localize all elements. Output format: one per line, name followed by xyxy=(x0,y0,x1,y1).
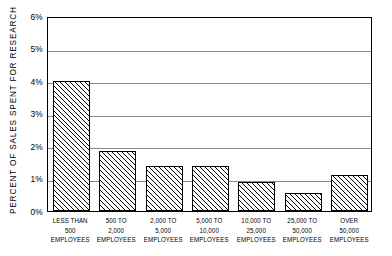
category-label: 10,000 TO25,000EMPLOYEES xyxy=(235,216,276,245)
y-tick-label: 0% xyxy=(17,208,43,217)
category-label-line: OVER xyxy=(328,216,369,226)
category-label-line: EMPLOYEES xyxy=(143,235,184,245)
category-label-line: EMPLOYEES xyxy=(50,235,91,245)
category-label-line: 25,000 TO xyxy=(282,216,323,226)
y-tick-label: 3% xyxy=(17,110,43,119)
bar-chart: PERCENT OF SALES SPENT FOR RESEARCH 0%1%… xyxy=(0,0,392,256)
bar xyxy=(99,151,136,211)
bar xyxy=(331,175,368,211)
y-tick-label: 5% xyxy=(17,45,43,54)
gridline xyxy=(48,116,371,117)
category-label-line: 50,000 xyxy=(282,226,323,236)
category-label: 500 TO2,000EMPLOYEES xyxy=(96,216,137,245)
category-label-line: EMPLOYEES xyxy=(96,235,137,245)
category-label-line: 500 xyxy=(50,226,91,236)
bar xyxy=(53,81,90,211)
category-label: 25,000 TO50,000EMPLOYEES xyxy=(282,216,323,245)
category-label-line: EMPLOYEES xyxy=(235,235,276,245)
y-tick-label: 1% xyxy=(17,175,43,184)
bar xyxy=(285,193,322,211)
category-label-line: 2,000 TO xyxy=(143,216,184,226)
category-label: 2,000 TO5,000EMPLOYEES xyxy=(143,216,184,245)
plot-area xyxy=(47,17,372,212)
category-label: OVER50,000EMPLOYEES xyxy=(328,216,369,245)
bar xyxy=(238,182,275,211)
y-tick-label: 2% xyxy=(17,143,43,152)
bar xyxy=(192,166,229,212)
category-label-line: EMPLOYEES xyxy=(282,235,323,245)
category-label-line: 5,000 xyxy=(143,226,184,236)
category-label-line: EMPLOYEES xyxy=(328,235,369,245)
category-label-line: 5,000 TO xyxy=(189,216,230,226)
category-label-line: 25,000 xyxy=(235,226,276,236)
category-label-line: LESS THAN xyxy=(50,216,91,226)
bar xyxy=(146,166,183,212)
category-label-line: 10,000 TO xyxy=(235,216,276,226)
category-label: 5,000 TO10,000EMPLOYEES xyxy=(189,216,230,245)
y-tick-label: 4% xyxy=(17,78,43,87)
category-label-line: 500 TO xyxy=(96,216,137,226)
y-tick-label: 6% xyxy=(17,13,43,22)
category-label-line: EMPLOYEES xyxy=(189,235,230,245)
gridline xyxy=(48,148,371,149)
gridline xyxy=(48,51,371,52)
gridline xyxy=(48,83,371,84)
category-label-line: 50,000 xyxy=(328,226,369,236)
category-label: LESS THAN500EMPLOYEES xyxy=(50,216,91,245)
category-label-line: 2,000 xyxy=(96,226,137,236)
category-label-line: 10,000 xyxy=(189,226,230,236)
